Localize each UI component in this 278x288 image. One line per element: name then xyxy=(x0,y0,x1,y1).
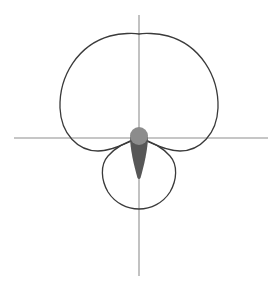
polar-plot-svg xyxy=(0,0,278,288)
polar-plot-canvas xyxy=(0,0,278,288)
origin-bulb xyxy=(130,127,148,145)
